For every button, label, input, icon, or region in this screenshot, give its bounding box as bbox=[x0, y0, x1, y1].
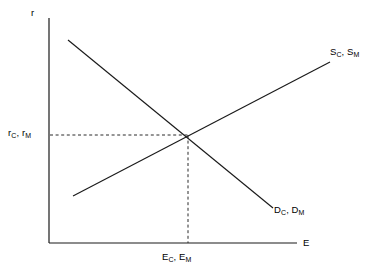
supply-sub-1: C bbox=[336, 51, 341, 58]
equilibrium-quantity-sub-2: M bbox=[186, 256, 192, 263]
supply-sub-2: M bbox=[354, 51, 360, 58]
equilibrium-rate-label: rC, rM bbox=[8, 128, 31, 138]
demand-base-2: D bbox=[292, 204, 299, 215]
demand-sub-2: M bbox=[299, 209, 305, 216]
equilibrium-rate-sub-2: M bbox=[25, 132, 31, 139]
equilibrium-guides-group bbox=[50, 135, 188, 243]
demand-base-1: D bbox=[274, 204, 281, 215]
equilibrium-rate-sub-1: C bbox=[11, 132, 16, 139]
equilibrium-quantity-sub-1: C bbox=[168, 256, 173, 263]
supply-base-2: S bbox=[347, 46, 353, 57]
axes-group bbox=[49, 18, 297, 243]
y-axis-label: r bbox=[31, 8, 34, 18]
demand-curve-label: DC, DM bbox=[274, 205, 305, 215]
equilibrium-quantity-label: EC, EM bbox=[162, 252, 191, 262]
supply-curve-label: SC, SM bbox=[330, 47, 359, 57]
chart-canvas bbox=[0, 0, 387, 273]
curves-group bbox=[68, 40, 330, 208]
supply-curve bbox=[73, 62, 330, 196]
demand-sub-1: C bbox=[281, 209, 286, 216]
supply-demand-chart: r E rC, rM EC, EM SC, SM DC, DM bbox=[0, 0, 387, 273]
x-axis-label: E bbox=[303, 238, 309, 248]
equilibrium-quantity-base-2: E bbox=[179, 251, 185, 262]
